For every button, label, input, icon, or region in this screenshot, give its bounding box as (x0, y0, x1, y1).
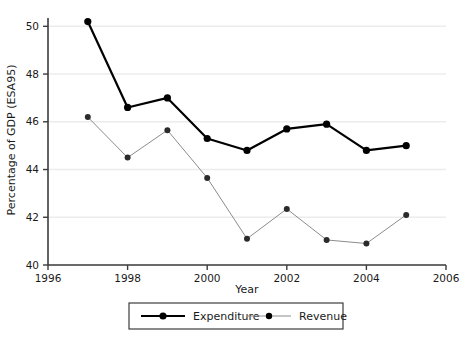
data-point-expenditure-2005 (403, 142, 410, 149)
x-tick-label-2006: 2006 (433, 272, 460, 284)
data-point-expenditure-1997 (84, 18, 91, 25)
x-axis-title: Year (234, 283, 259, 296)
y-tick-label-46: 46 (26, 115, 40, 127)
legend-label-revenue: Revenue (299, 310, 347, 323)
data-point-revenue-2000 (204, 175, 210, 181)
y-tick-label-40: 40 (26, 259, 39, 271)
data-point-expenditure-1998 (124, 104, 131, 111)
x-tick-label-2004: 2004 (353, 272, 380, 284)
data-point-revenue-2003 (324, 237, 330, 243)
data-point-expenditure-2000 (204, 135, 211, 142)
legend-swatch-marker-expenditure (159, 312, 166, 319)
x-tick-label-1996: 1996 (35, 272, 62, 284)
data-point-revenue-2004 (363, 241, 369, 247)
chart-figure: 404244464850 199619982000200220042006 Pe… (0, 0, 466, 337)
chart-background (0, 0, 466, 337)
data-point-revenue-2002 (284, 206, 290, 212)
data-point-expenditure-2001 (243, 147, 250, 154)
data-point-revenue-1997 (85, 114, 91, 120)
y-tick-label-50: 50 (26, 20, 39, 32)
data-point-expenditure-2003 (323, 121, 330, 128)
data-point-revenue-2005 (403, 212, 409, 218)
x-tick-label-1998: 1998 (114, 272, 141, 284)
legend-swatch-marker-revenue (266, 313, 272, 319)
data-point-revenue-2001 (244, 236, 250, 242)
y-tick-label-44: 44 (26, 163, 40, 175)
y-tick-label-42: 42 (26, 211, 39, 223)
data-point-revenue-1999 (164, 127, 170, 133)
y-axis-title: Percentage of GDP (ESA95) (5, 65, 18, 216)
chart-legend: ExpenditureRevenue (129, 303, 347, 329)
line-chart-svg: 404244464850 199619982000200220042006 Pe… (0, 0, 466, 337)
data-point-revenue-1998 (125, 155, 131, 161)
data-point-expenditure-2004 (363, 147, 370, 154)
y-tick-label-48: 48 (26, 68, 39, 80)
x-tick-label-2000: 2000 (194, 272, 221, 284)
data-point-expenditure-2002 (283, 125, 290, 132)
x-tick-label-2002: 2002 (273, 272, 300, 284)
data-point-expenditure-1999 (164, 94, 171, 101)
